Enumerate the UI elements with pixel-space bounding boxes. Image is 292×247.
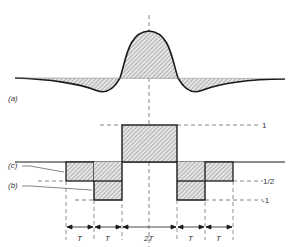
pulse-b-left [94, 181, 122, 200]
interval-label-5: T [216, 234, 222, 243]
label-c: (c) [8, 161, 18, 170]
label-b: (b) [8, 181, 18, 190]
interval-arrows [67, 225, 232, 229]
interval-label-4: T [188, 234, 194, 243]
label-a: (a) [8, 94, 18, 103]
interval-label-2: T [105, 234, 111, 243]
level-label-1: 1 [262, 121, 267, 130]
level-label-half: 1/2 [263, 177, 275, 186]
pulse-b-right [177, 181, 205, 200]
pulse-center [122, 125, 177, 162]
level-label-minus1: -1 [262, 196, 270, 205]
interval-label-1: T [77, 234, 83, 243]
pulse-c-right [205, 162, 233, 181]
curve-a [15, 31, 285, 92]
pulse-c-left [66, 162, 94, 181]
interval-label-3: 2T [143, 234, 154, 243]
pulse-diagram: (a) T T 2T T [0, 0, 292, 247]
